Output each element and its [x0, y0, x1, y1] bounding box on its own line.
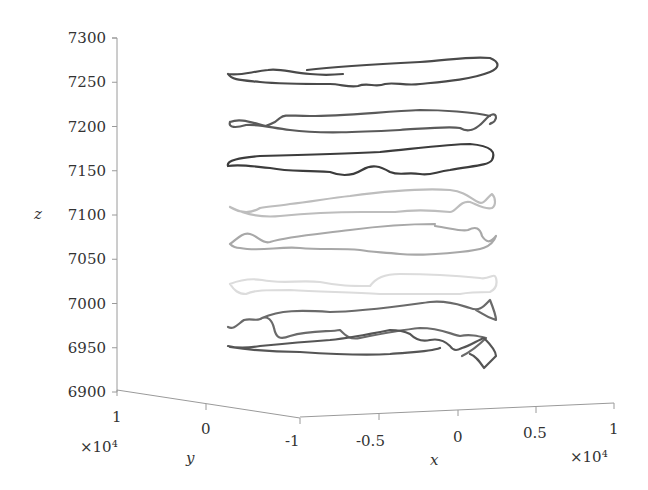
- z-tick-label: 7300: [68, 29, 106, 47]
- trajectory-line: [230, 110, 496, 132]
- x-tick-label: -0.5: [356, 432, 385, 450]
- z-axis: 730072507200715071007050700069506900 z: [33, 29, 117, 401]
- x-tick-label: 0: [453, 428, 463, 446]
- chart-3d-trajectories: 730072507200715071007050700069506900 z 1…: [0, 0, 648, 490]
- z-tick-label: 7250: [68, 73, 106, 91]
- z-tick-label: 7000: [68, 295, 106, 313]
- trajectory-line: [228, 144, 494, 175]
- trajectory-curves: [228, 57, 498, 368]
- y-axis-label: y: [185, 449, 195, 467]
- y-exponent: ×10⁴: [80, 438, 118, 456]
- x-axis-label: x: [430, 451, 439, 469]
- y-tick-label: 0: [201, 420, 211, 438]
- z-tick-label: 6950: [68, 339, 106, 357]
- trajectory-line: [230, 224, 496, 255]
- trajectory-line: [230, 274, 497, 294]
- z-tick-label: 7100: [68, 206, 106, 224]
- z-tick-label: 7050: [68, 250, 106, 268]
- x-axis: -0.5 0 0.5 1 ×10⁴ x: [300, 403, 619, 469]
- y-tick-label: -1: [285, 432, 300, 450]
- x-tick-label: 1: [609, 420, 619, 438]
- trajectory-line: [228, 300, 496, 356]
- trajectory-line: [230, 189, 495, 216]
- z-tick-label: 7150: [68, 162, 106, 180]
- z-axis-label: z: [33, 205, 42, 223]
- z-tick-label: 6900: [68, 383, 106, 401]
- trajectory-line: [228, 57, 498, 86]
- y-tick-label: 1: [112, 408, 122, 426]
- x-exponent: ×10⁴: [570, 448, 608, 466]
- z-tick-label: 7200: [68, 118, 106, 136]
- x-tick-label: 0.5: [523, 424, 547, 442]
- y-axis: 1 0 -1 ×10⁴ y: [80, 390, 300, 467]
